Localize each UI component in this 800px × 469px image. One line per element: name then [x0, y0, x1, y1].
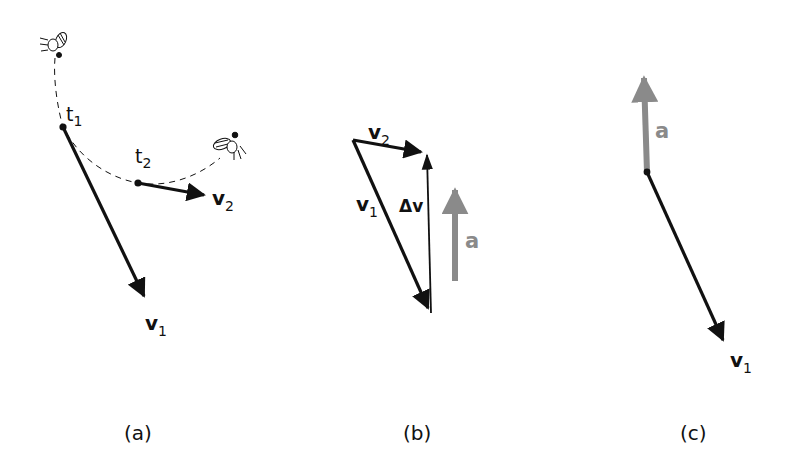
vector-delta-v — [427, 155, 431, 313]
vector-diagram: t1 t2 v2 v1 (a) v2 v1 Δv a (b) a v1 (c) — [0, 0, 800, 469]
panel-c: a v1 (c) — [644, 78, 752, 445]
label-delta-v: Δv — [399, 196, 423, 216]
vector-a — [644, 78, 647, 172]
fly-start-icon — [40, 31, 69, 58]
label-t2: t2 — [135, 145, 151, 171]
label-a: a — [465, 229, 479, 253]
caption-b: (b) — [403, 421, 431, 445]
vector-v1 — [647, 172, 723, 340]
velocity-vector-v1 — [63, 127, 144, 296]
label-v1: v1 — [356, 192, 378, 220]
origin-point — [644, 169, 651, 176]
label-v1: v1 — [145, 311, 167, 339]
label-t1: t1 — [66, 103, 82, 129]
label-v1: v1 — [730, 348, 752, 376]
panel-b: v2 v1 Δv a (b) — [353, 120, 479, 445]
caption-c: (c) — [680, 421, 707, 445]
panel-a: t1 t2 v2 v1 (a) — [40, 31, 246, 445]
caption-a: (a) — [124, 421, 152, 445]
label-a: a — [655, 119, 669, 143]
vector-v1 — [353, 140, 428, 308]
label-v2: v2 — [212, 186, 234, 214]
velocity-vector-v2 — [138, 183, 204, 195]
label-v2: v2 — [368, 120, 390, 148]
point-t2 — [134, 179, 141, 186]
fly-end-icon — [212, 132, 246, 160]
